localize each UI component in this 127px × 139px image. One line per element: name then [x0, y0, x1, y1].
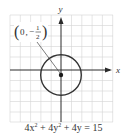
svg-text:(: (: [14, 23, 19, 41]
y-axis-label: y: [58, 4, 63, 14]
x-axis-arrow-icon: [105, 68, 112, 73]
svg-text:−: −: [29, 26, 34, 36]
svg-text:0: 0: [20, 27, 25, 37]
center-point: [59, 73, 63, 77]
svg-text:,: ,: [26, 27, 28, 37]
circle-graph: x y ( 0 , − 1 2 ): [0, 0, 127, 139]
svg-text:): ): [42, 23, 47, 41]
equation-caption: 4x2 + 4y2 + 4y = 15: [0, 122, 127, 133]
x-axis-label: x: [115, 65, 120, 75]
svg-text:1: 1: [36, 24, 40, 32]
point-label: ( 0 , − 1 2 ): [14, 22, 48, 42]
y-axis-arrow-icon: [59, 17, 64, 24]
svg-text:2: 2: [36, 33, 40, 41]
